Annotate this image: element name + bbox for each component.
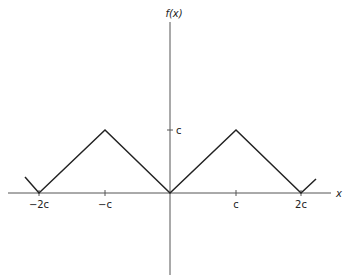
y-axis-label: f(x) (165, 8, 182, 19)
x-tick-label-negc: −c (98, 199, 112, 210)
x-tick-label-c: c (233, 199, 239, 210)
x-tick-label-2c: 2c (295, 199, 307, 210)
y-tick-label-c: c (176, 125, 182, 136)
chart: −2c −c c 2c c x f(x) (0, 0, 352, 277)
x-axis-label: x (335, 188, 342, 199)
x-tick-label-neg2c: −2c (29, 199, 49, 210)
